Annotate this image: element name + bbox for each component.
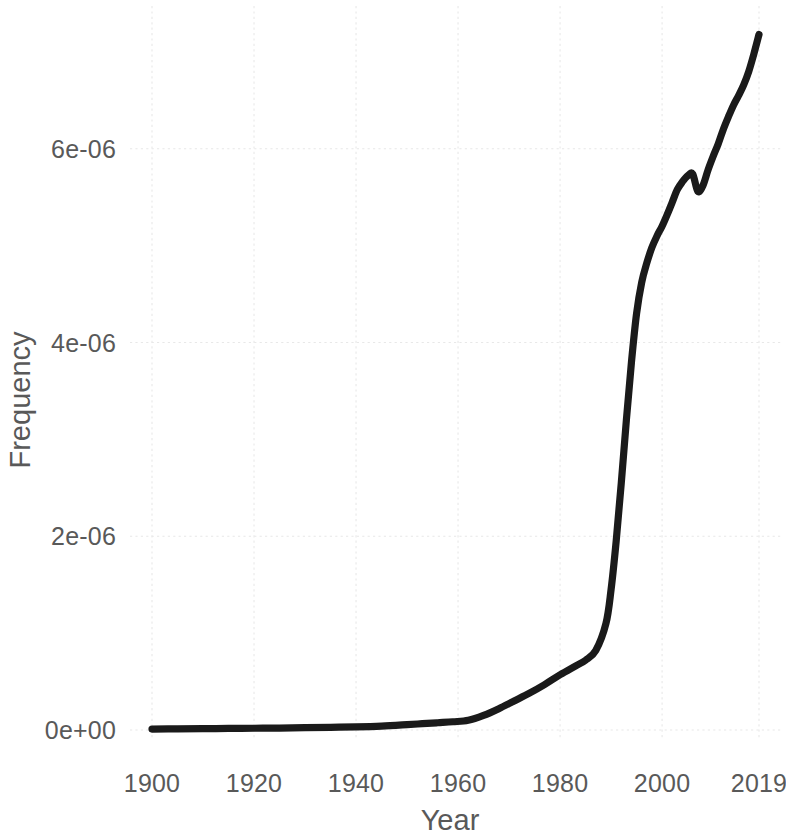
- gridlines-horizontal: [130, 149, 782, 730]
- x-axis-tick-labels: 1900192019401960198020002019: [124, 769, 786, 797]
- x-tick-label-1940: 1940: [328, 769, 384, 797]
- x-tick-label-1960: 1960: [430, 769, 486, 797]
- gridlines-vertical: [152, 6, 759, 738]
- x-tick-label-1920: 1920: [226, 769, 282, 797]
- frequency-line-chart: 1900192019401960198020002019 0e+002e-064…: [0, 0, 786, 839]
- y-tick-label-4e-06: 4e-06: [51, 329, 116, 357]
- x-tick-label-1900: 1900: [124, 769, 180, 797]
- y-axis-title: Frequency: [4, 331, 36, 469]
- y-tick-label-0e+00: 0e+00: [45, 716, 116, 744]
- x-tick-label-2000: 2000: [634, 769, 690, 797]
- y-tick-label-2e-06: 2e-06: [51, 522, 116, 550]
- x-tick-label-1980: 1980: [532, 769, 588, 797]
- chart-container: 1900192019401960198020002019 0e+002e-064…: [0, 0, 786, 839]
- x-axis-title: Year: [421, 804, 480, 836]
- y-tick-label-6e-06: 6e-06: [51, 135, 116, 163]
- x-tick-label-2019: 2019: [731, 769, 786, 797]
- y-axis-tick-labels: 0e+002e-064e-066e-06: [45, 135, 116, 744]
- frequency-series-line: [152, 34, 759, 729]
